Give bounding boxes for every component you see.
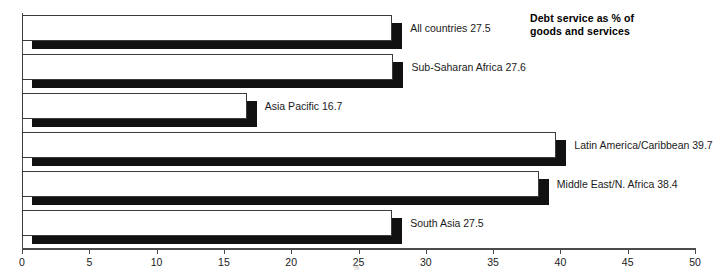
x-axis-tick xyxy=(695,248,696,254)
x-axis-tick-label: 50 xyxy=(689,256,701,268)
x-axis-tick xyxy=(157,248,158,254)
bar-face[interactable] xyxy=(22,132,556,158)
bar-value-label: Asia Pacific 16.7 xyxy=(265,100,343,112)
x-axis-tick xyxy=(291,248,292,254)
bar-value-label: Sub-Saharan Africa 27.6 xyxy=(411,61,525,73)
bar-row: South Asia 27.5 xyxy=(0,208,712,247)
bar-value-label: All countries 27.5 xyxy=(410,22,491,34)
bar-face[interactable] xyxy=(22,54,393,80)
x-axis-tick-label: 40 xyxy=(555,256,567,268)
bar-row: Asia Pacific 16.7 xyxy=(0,91,712,130)
bar-value-label: Latin America/Caribbean 39.7 xyxy=(574,139,712,151)
bar-value-label: South Asia 27.5 xyxy=(410,217,484,229)
x-axis-tick xyxy=(89,248,90,254)
x-axis-tick-label: 45 xyxy=(622,256,634,268)
x-axis-tick xyxy=(628,248,629,254)
x-axis-tick-label: 35 xyxy=(487,256,499,268)
x-axis-tick-label: 15 xyxy=(218,256,230,268)
bar-face[interactable] xyxy=(22,210,392,236)
plot-area: All countries 27.5Sub-Saharan Africa 27.… xyxy=(0,0,712,250)
x-axis-tick-label: 30 xyxy=(420,256,432,268)
bar-row: Sub-Saharan Africa 27.6 xyxy=(0,52,712,91)
x-axis-tick-label: 0 xyxy=(19,256,25,268)
x-axis-tick-label: 10 xyxy=(151,256,163,268)
bar-value-label: Middle East/N. Africa 38.4 xyxy=(557,178,678,190)
x-axis-tick xyxy=(493,248,494,254)
x-axis-tick xyxy=(560,248,561,254)
x-axis-tick-label: 20 xyxy=(285,256,297,268)
bar-row: Middle East/N. Africa 38.4 xyxy=(0,169,712,208)
bar-row: Latin America/Caribbean 39.7 xyxy=(0,130,712,169)
x-axis-tick xyxy=(22,248,23,254)
x-axis-tick xyxy=(224,248,225,254)
bar-face[interactable] xyxy=(22,15,392,41)
x-axis-tick xyxy=(359,248,360,254)
x-axis-tick xyxy=(426,248,427,254)
bar-row: All countries 27.5 xyxy=(0,13,712,52)
x-axis-unit-label: % xyxy=(353,264,359,271)
bar-face[interactable] xyxy=(22,93,247,119)
bar-face[interactable] xyxy=(22,171,539,197)
x-axis-tick-label: 5 xyxy=(86,256,92,268)
